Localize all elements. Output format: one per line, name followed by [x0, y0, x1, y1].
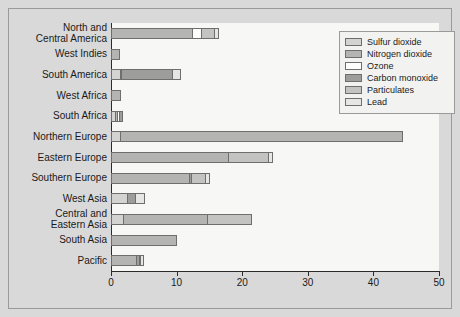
legend-swatch: [345, 62, 362, 70]
bar-group: [111, 235, 177, 246]
legend-item[interactable]: Ozone: [345, 60, 449, 71]
x-axis-tick: [111, 271, 112, 276]
bar-segment: [111, 49, 120, 60]
bar-group: [111, 28, 223, 39]
bar-segment: [121, 69, 173, 80]
chart-figure: North andCentral AmericaWest IndiesSouth…: [0, 0, 460, 317]
bar-group: [111, 69, 183, 80]
bar-segment: [119, 111, 123, 122]
bar-segment: [123, 214, 208, 225]
x-axis-tick: [373, 271, 374, 276]
x-axis-tick: [308, 271, 309, 276]
bar-group: [111, 193, 147, 204]
bar-segment: [205, 173, 210, 184]
bar-segment: [214, 28, 220, 39]
bar-group: [111, 111, 126, 122]
bar-segment: [268, 152, 273, 163]
bar-segment: [111, 255, 137, 266]
x-axis-tick-label: 50: [433, 277, 444, 288]
y-axis-label: South Asia: [9, 234, 107, 246]
legend-label: Lead: [367, 97, 387, 107]
legend-label: Ozone: [367, 61, 394, 71]
bar-segment: [111, 193, 128, 204]
bar-group: [111, 152, 275, 163]
bar-group: [111, 131, 404, 142]
legend-swatch: [345, 98, 362, 106]
bar-segment: [111, 235, 177, 246]
bar-segment: [207, 214, 252, 225]
legend-swatch: [345, 38, 362, 46]
legend-item[interactable]: Particulates: [345, 84, 449, 95]
y-axis-label: Northern Europe: [9, 131, 107, 143]
y-axis-label: Central andEastern Asia: [9, 208, 107, 231]
bar-group: [111, 214, 254, 225]
chart-frame: North andCentral AmericaWest IndiesSouth…: [8, 8, 452, 309]
legend-swatch: [345, 50, 362, 58]
legend-item[interactable]: Sulfur dioxide: [345, 36, 449, 47]
legend-swatch: [345, 86, 362, 94]
bar-segment: [135, 193, 145, 204]
bar-group: [111, 173, 213, 184]
legend-item[interactable]: Nitrogen dioxide: [345, 48, 449, 59]
y-axis-label: Southern Europe: [9, 172, 107, 184]
legend-label: Nitrogen dioxide: [367, 49, 432, 59]
x-axis-tick: [439, 271, 440, 276]
bar-segment: [191, 173, 206, 184]
bar-group: [111, 90, 121, 101]
bar-segment: [228, 152, 269, 163]
bar-group: [111, 49, 120, 60]
x-axis-tick-label: 0: [108, 277, 114, 288]
legend-label: Sulfur dioxide: [367, 37, 422, 47]
bar-segment: [140, 255, 145, 266]
bar-segment: [111, 28, 193, 39]
y-axis-label: South Africa: [9, 110, 107, 122]
x-axis-line: [111, 271, 440, 272]
bar-group: [111, 255, 147, 266]
x-axis-tick: [242, 271, 243, 276]
bar-segment: [111, 90, 121, 101]
y-axis-label: Pacific: [9, 255, 107, 267]
y-axis-label: West Indies: [9, 48, 107, 60]
bar-segment: [111, 173, 190, 184]
y-axis-label: North andCentral America: [9, 22, 107, 45]
x-axis-tick-label: 10: [171, 277, 182, 288]
x-axis-tick-label: 20: [237, 277, 248, 288]
y-axis-label: West Africa: [9, 90, 107, 102]
bar-segment: [111, 152, 229, 163]
bar-segment: [120, 131, 402, 142]
x-axis-tick-label: 30: [302, 277, 313, 288]
x-axis-tick-label: 40: [368, 277, 379, 288]
legend-swatch: [345, 74, 362, 82]
bar-segment: [172, 69, 181, 80]
legend-label: Particulates: [367, 85, 414, 95]
legend-label: Carbon monoxide: [367, 73, 438, 83]
legend-item[interactable]: Carbon monoxide: [345, 72, 449, 83]
y-axis-label: South America: [9, 69, 107, 81]
chart-legend: Sulfur dioxideNitrogen dioxideOzoneCarbo…: [339, 31, 455, 114]
legend-item[interactable]: Lead: [345, 96, 449, 107]
y-axis-label: Eastern Europe: [9, 152, 107, 164]
x-axis-tick: [177, 271, 178, 276]
y-axis-label: West Asia: [9, 193, 107, 205]
